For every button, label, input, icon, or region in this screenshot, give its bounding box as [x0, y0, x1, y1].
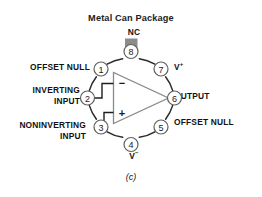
plus-terminal-symbol: + — [119, 107, 125, 119]
pin-pad-2[interactable]: 2 — [81, 91, 95, 105]
pin-pad-5[interactable]: 5 — [154, 120, 168, 134]
pin-pad-1[interactable]: 1 — [94, 62, 108, 76]
pin-number-3: 3 — [98, 123, 103, 133]
pin-number-5: 5 — [158, 123, 163, 133]
pin-number-2: 2 — [85, 94, 90, 104]
pin-number-8: 8 — [128, 47, 133, 57]
package-drawing: − + 8 1 7 2 6 — [0, 0, 262, 197]
pin-pad-4[interactable]: 4 — [124, 138, 138, 152]
pin-pad-7[interactable]: 7 — [154, 62, 168, 76]
pin-pad-6[interactable]: 6 — [168, 91, 182, 105]
minus-terminal-symbol: − — [119, 77, 125, 89]
pin-number-6: 6 — [172, 94, 177, 104]
metal-can-package-figure: Metal Can Package NC V− OFFSET NULL INVE… — [0, 0, 262, 197]
inverting-input-lead — [95, 84, 114, 99]
pin-pad-3[interactable]: 3 — [94, 120, 108, 134]
pin-number-7: 7 — [158, 65, 163, 75]
pin-number-4: 4 — [128, 140, 133, 150]
figure-caption: (c) — [0, 172, 262, 182]
pin-pad-8[interactable]: 8 — [124, 45, 138, 59]
pin-number-1: 1 — [98, 65, 103, 75]
